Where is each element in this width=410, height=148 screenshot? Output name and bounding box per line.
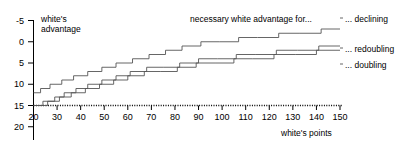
series-line-0 xyxy=(34,29,341,93)
legend-item-redoubling[interactable]: ... redoubling xyxy=(345,44,394,54)
legend-item-doubling[interactable]: ... doubling xyxy=(345,60,387,70)
x-tick-label-90: 90 xyxy=(189,112,209,122)
x-axis-title: white's points xyxy=(281,128,332,138)
x-tick-label-20: 20 xyxy=(24,112,44,122)
x-tick-label-60: 60 xyxy=(118,112,138,122)
y-tick-marks xyxy=(28,21,34,127)
y-tick-label-5: 10 xyxy=(6,79,24,89)
y-tick-label-0: 15 xyxy=(6,101,24,111)
x-tick-label-140: 140 xyxy=(306,112,326,122)
x-tick-label-150: 150 xyxy=(330,112,350,122)
y-axis-title-line1: white's xyxy=(41,14,67,24)
y-axis-title-line2: advantage xyxy=(41,24,81,34)
y-tick-label-10: 5 xyxy=(6,58,24,68)
x-tick-label-110: 110 xyxy=(236,112,256,122)
x-tick-label-80: 80 xyxy=(165,112,185,122)
x-tick-label-70: 70 xyxy=(141,112,161,122)
chart-title: necessary white advantage for... xyxy=(190,14,312,24)
y-tick-label--5: 20 xyxy=(6,122,24,132)
x-tick-label-130: 130 xyxy=(283,112,303,122)
legend-leader-lines xyxy=(340,18,343,64)
x-tick-label-30: 30 xyxy=(47,112,67,122)
x-tick-label-50: 50 xyxy=(94,112,114,122)
axis-lines xyxy=(28,20,340,140)
x-tick-label-40: 40 xyxy=(71,112,91,122)
chart-figure: white's advantage necessary white advant… xyxy=(0,0,410,148)
series-line-2 xyxy=(34,50,341,105)
series-lines xyxy=(34,29,341,106)
y-tick-label-20: -5 xyxy=(6,16,24,26)
x-tick-label-120: 120 xyxy=(259,112,279,122)
x-tick-label-100: 100 xyxy=(212,112,232,122)
legend-item-declining[interactable]: ... declining xyxy=(345,14,388,24)
y-tick-label-15: 0 xyxy=(6,37,24,47)
